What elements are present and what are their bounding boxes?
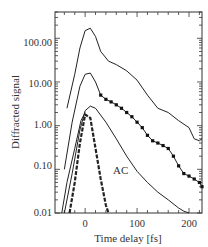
- y-tick-label: 1.00: [34, 119, 52, 130]
- data-series: [62, 28, 204, 213]
- ac-annotation: AC: [113, 164, 128, 176]
- y-tick-label: 0.10: [34, 160, 52, 171]
- y-tick-label: 100.00: [23, 37, 52, 48]
- x-axis-title: Time delay [fs]: [94, 232, 161, 244]
- y-tick-label: 10.00: [28, 78, 52, 89]
- chart: 0 100 200 100.00 10.00 1.00 0.10 0.01 Ti…: [0, 0, 208, 247]
- x-tick-label: 100: [129, 218, 145, 229]
- y-tick-label: 0.01: [34, 207, 52, 218]
- x-tick-label: 200: [181, 218, 197, 229]
- plot-frame: [55, 12, 202, 213]
- x-tick-label: 0: [82, 218, 87, 229]
- y-axis-title: Diffracted signal: [9, 75, 21, 149]
- axis-ticks: [55, 12, 202, 213]
